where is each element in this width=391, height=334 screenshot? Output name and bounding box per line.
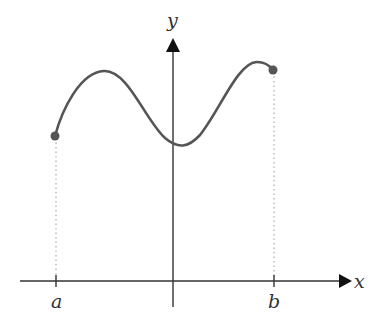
endpoint-a — [51, 132, 60, 141]
function-curve — [55, 62, 273, 146]
x-axis-arrow-icon — [339, 274, 352, 288]
interval-label-b: b — [268, 290, 280, 312]
endpoint-b — [269, 66, 278, 75]
x-axis-label: x — [354, 270, 365, 292]
function-graph: y x a b — [0, 0, 391, 334]
y-axis-arrow-icon — [166, 38, 180, 52]
y-axis-label: y — [166, 9, 178, 31]
interval-label-a: a — [51, 290, 62, 312]
